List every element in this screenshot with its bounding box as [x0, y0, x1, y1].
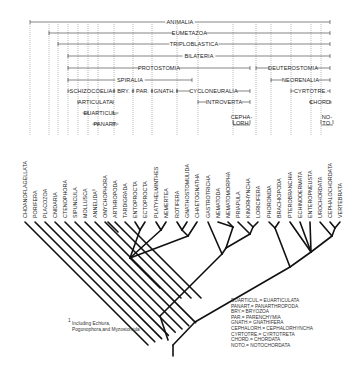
- clade-spiralia: SPIRALIA: [68, 77, 192, 83]
- clade-protostomia: PROTOSTOMIA: [68, 65, 250, 71]
- taxon-label-nematoda: NEMATODA: [215, 188, 221, 218]
- clade-cyrtotre: CYRTOTRE.: [291, 88, 330, 94]
- clade-introverta: INTROVERTA: [198, 99, 250, 105]
- clade-label: INTROVERTA: [206, 99, 243, 105]
- legend-entry: CEPHALORH.= CEPHALORHYNCHA: [231, 326, 314, 331]
- footnote: 1 Including Echiura, Pogonophora,and Myz…: [68, 318, 140, 332]
- taxon-label-nematomorpha: NEMATOMORPHA: [225, 171, 231, 218]
- clade-label: EUARTICUL.: [83, 110, 118, 116]
- clade-bilateria: BILATERIA: [68, 53, 330, 59]
- clade-eumetazoa: EUMETAZOA: [49, 30, 330, 36]
- taxon-label-enteropneusta: ENTEROPNEUSTA: [307, 170, 313, 218]
- clade-label: PAR.: [136, 88, 149, 94]
- taxon-label-chaetognatha: CHAETOGNATHA: [194, 173, 200, 218]
- taxon-label-porifera: PORIFERA: [32, 190, 38, 218]
- legend-entry: CYRTOTRE.= CYRTOTRETA: [231, 332, 295, 337]
- taxon-label-choanoflagellata: CHOANOFLAGELLATA: [22, 161, 28, 218]
- taxon-label-rotifera: ROTIFERA: [174, 190, 180, 218]
- taxon-label-tardigrada: TARDIGRADA: [122, 183, 128, 218]
- taxon-label-echinodermata: ECHINODERMATA: [297, 171, 303, 218]
- footnote-marker: 1: [68, 318, 71, 323]
- clade-cepha-lorh: CEPHA-LORH.: [231, 114, 253, 126]
- taxon-label-priapula: PRIAPULA: [235, 191, 241, 218]
- clade-panart: PANART.: [92, 121, 118, 127]
- taxon-label-brachiopoda: BRACHIOPODA: [276, 178, 282, 218]
- taxon-label-kinorhyncha: KINORHYNCHA: [245, 178, 251, 218]
- clade-gnath: GNATH.: [152, 88, 177, 94]
- legend-entry: PAR.= PARENCHYMIA: [231, 315, 282, 320]
- clade-animalia: ANIMALIA: [30, 19, 330, 25]
- legend-entry: PANART.= PANARTHROPODA: [231, 304, 299, 309]
- taxon-label-pterobranchia: PTEROBRANCHIA: [287, 171, 293, 218]
- footnote-line-2: Pogonophora,and Myzostomida: [72, 327, 140, 332]
- taxon-label-platyhelminthes: PLATYHELMINTHES: [153, 166, 159, 218]
- taxon-label-nemertea: NEMERTEA: [163, 188, 169, 218]
- taxon-label-cnidaria: CNIDARIA: [52, 192, 58, 218]
- legend-entry: BRY.= BRYOZOA: [231, 309, 270, 314]
- clade-label: CHORD.: [309, 99, 332, 105]
- clade-label: ANIMALIA: [167, 19, 194, 25]
- taxon-label-gnathostomulida: GNATHOSTOMULIDA: [184, 164, 190, 218]
- taxon-label-onychophora: ONYCHOPHORA: [102, 175, 108, 218]
- clade-label: SCHIZOCOELIA: [70, 88, 113, 94]
- abbreviation-legend: EUARTICUL.= EUARTICULATAPANART.= PANARTH…: [231, 298, 314, 348]
- clade-par: PAR.: [133, 88, 152, 94]
- taxon-label-entoprocta: ENTOPROCTA: [132, 181, 138, 218]
- taxon-label-gastrotricha: GASTROTRICHA: [205, 175, 211, 218]
- clade-label: LORH.: [233, 120, 251, 126]
- cladogram-diagram: ANIMALIAEUMETAZOATRIPLOBLASTICABILATERIA…: [0, 0, 346, 371]
- clade-label: CYRTOTRE.: [294, 88, 327, 94]
- clade-label: PROTOSTOMIA: [138, 65, 180, 71]
- clade-triploblastica: TRIPLOBLASTICA: [58, 41, 330, 47]
- clade-deuterostomia: DEUTEROSTOMIA: [256, 65, 330, 71]
- clade-label: BRY.: [117, 88, 130, 94]
- clade-bry: BRY.: [114, 88, 133, 94]
- taxon-label-placozoa: PLACOZOA: [42, 188, 48, 218]
- clade-label: NEORENALIA: [282, 77, 319, 83]
- taxon-label-loricifera: LORICIFERA: [255, 185, 261, 218]
- taxon-label-sipuncula: SIPUNCULA: [72, 187, 78, 218]
- legend-entry: CHORD.= CHORDATA: [231, 337, 281, 342]
- clade-label: CYCLONEURALIA: [189, 88, 238, 94]
- legend-entry: EUARTICUL.= EUARTICULATA: [231, 298, 300, 303]
- clade-label: TO.: [322, 120, 332, 126]
- taxon-label-ctenophora: CTENOPHORA: [62, 180, 68, 218]
- taxon-label-arthropoda: ARTHROPODA: [112, 180, 118, 218]
- clade-label: EUMETAZOA: [172, 30, 207, 36]
- clade-label: SPIRALIA: [117, 77, 143, 83]
- clade-articulata: ARTICULATA: [78, 99, 114, 105]
- clade-euarticul: EUARTICUL.: [83, 110, 119, 116]
- clade-chord: CHORD.: [309, 99, 332, 105]
- clade-bars: ANIMALIAEUMETAZOATRIPLOBLASTICABILATERIA…: [30, 19, 333, 127]
- taxon-label-cephalochordata: CEPHALOCHORDATA: [327, 162, 333, 218]
- taxon-label-mollusca: MOLLUSCA: [82, 188, 88, 218]
- clade-schizocoelia: SCHIZOCOELIA: [68, 88, 114, 94]
- clade-label: ARTICULATA: [78, 99, 113, 105]
- taxon-label-vertebrata: VERTEBRATA: [337, 183, 343, 218]
- taxon-labels: CHOANOFLAGELLATAPORIFERAPLACOZOACNIDARIA…: [22, 161, 343, 218]
- clade-label: DEUTEROSTOMIA: [268, 65, 318, 71]
- taxon-label-phoronida: PHORONIDA: [266, 185, 272, 218]
- clade-no-to: NO-TO.: [321, 114, 333, 126]
- clade-label: GNATH.: [154, 88, 176, 94]
- taxon-label-ectoprocta: ECTOPROCTA: [142, 181, 148, 218]
- clade-label: BILATERIA: [184, 53, 213, 59]
- legend-entry: NOTO.= NOTOCHORDATA: [231, 343, 291, 348]
- taxon-label-urochordata: UROCHORDATA: [317, 176, 323, 218]
- footnote-line-1: Including Echiura,: [72, 321, 110, 326]
- legend-entry: GNATH.= GNATHIFERA: [231, 320, 284, 325]
- taxon-label-annelida: ANNELIDA1: [92, 189, 98, 218]
- clade-cycloneuralia: CYCLONEURALIA: [177, 88, 250, 94]
